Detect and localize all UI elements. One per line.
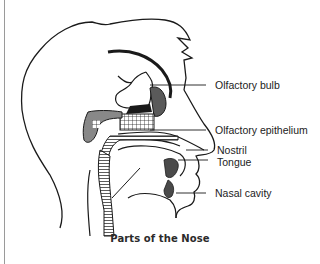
- label-olfactory-epithelium: Olfactory epithelium: [215, 125, 308, 136]
- olfactory-bulb-shape: [116, 72, 153, 108]
- face-profile: [176, 90, 215, 218]
- label-nasal-cavity: Nasal cavity: [215, 188, 272, 199]
- label-olfactory-bulb: Olfactory bulb: [215, 80, 280, 91]
- label-tongue: Tongue: [217, 157, 251, 168]
- figure-caption: Parts of the Nose: [0, 233, 320, 244]
- label-nostril: Nostril: [217, 145, 247, 156]
